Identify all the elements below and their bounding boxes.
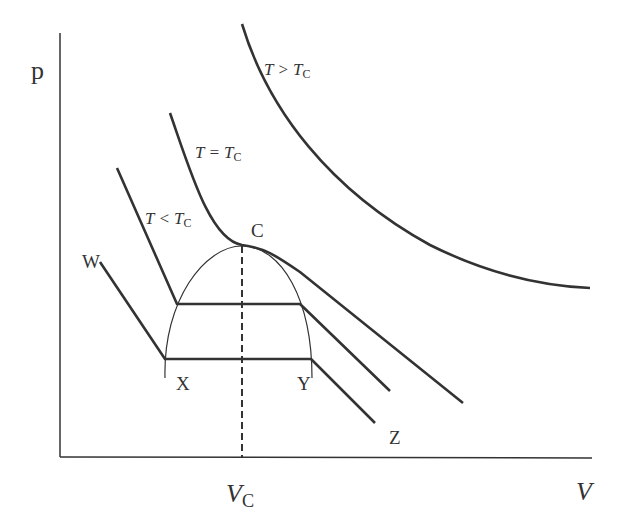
isotherm-below-critical-label: T < TC — [145, 210, 192, 227]
isotherm-below-critical — [117, 168, 390, 391]
critical-volume-label: VC — [226, 481, 254, 507]
y-axis-label: p — [31, 58, 44, 84]
point-x-label: X — [176, 374, 190, 393]
critical-point-label: C — [251, 221, 264, 240]
isotherm-critical-relation: T = T — [195, 143, 234, 162]
x-axis — [60, 457, 592, 458]
isotherm-above-critical-subscript: C — [303, 67, 311, 81]
isotherm-critical-subscript: C — [234, 150, 242, 164]
point-w-label: W — [82, 252, 100, 271]
isotherm-below-critical-subscript: C — [184, 216, 192, 230]
isotherm-above-critical-label: T > TC — [264, 61, 311, 78]
x-axis-label: V — [576, 479, 592, 505]
isotherm-below-critical-relation: T < T — [145, 209, 184, 228]
pv-diagram: p V VC T > TC T = TC T < TC C W X Y Z — [0, 0, 617, 524]
critical-volume-symbol: V — [226, 479, 242, 508]
critical-volume-subscript: C — [242, 491, 254, 511]
point-y-label: Y — [297, 374, 311, 393]
isotherm-critical-label: T = TC — [195, 144, 242, 161]
point-z-label: Z — [389, 428, 401, 447]
isotherm-wxyz — [100, 262, 375, 423]
isotherm-above-critical-relation: T > T — [264, 60, 303, 79]
